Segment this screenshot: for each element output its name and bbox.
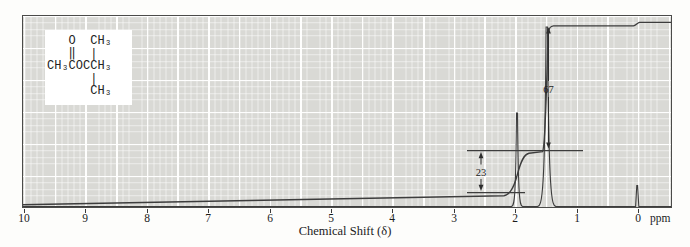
structure-inset: O CH₃ ‖ | CH₃COCCH₃ | CH₃	[45, 30, 132, 105]
structure-line-1: O CH₃	[47, 35, 132, 48]
axis-unit-label: ppm	[650, 212, 684, 225]
integral-value-67: 67	[543, 84, 554, 95]
integral-value-23: 23	[476, 167, 487, 178]
tick-label-1: 1	[565, 212, 589, 225]
tick-label-9: 9	[73, 212, 97, 225]
arrowhead-down-23	[479, 185, 484, 191]
arrowhead-down-67	[546, 142, 551, 148]
tick-label-8: 8	[135, 212, 159, 225]
tick-label-0: 0	[626, 212, 650, 225]
arrowhead-up-23	[479, 152, 484, 158]
structure-line-3: CH₃COCCH₃	[47, 60, 132, 73]
structure-line-5: CH₃	[47, 85, 132, 98]
tick-label-7: 7	[196, 212, 220, 225]
tick-label-10: 10	[12, 212, 36, 225]
nmr-spectrum-figure: 23 67 O CH₃ ‖ | CH₃COCCH₃ | CH₃ 10 9 8 7…	[0, 0, 690, 247]
tick-label-2: 2	[503, 212, 527, 225]
x-axis-title: Chemical Shift (δ)	[265, 224, 425, 239]
tick-label-3: 3	[442, 212, 466, 225]
